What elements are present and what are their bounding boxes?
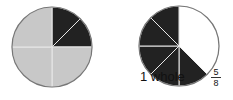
five-eighths-label: 5 8 [210,67,222,88]
fraction-circles-diagram [0,0,233,100]
fraction-denominator: 8 [210,78,222,88]
one-whole-label: 1 whole [140,69,185,84]
whole-circle [12,7,92,87]
fraction-numerator: 5 [210,67,222,77]
